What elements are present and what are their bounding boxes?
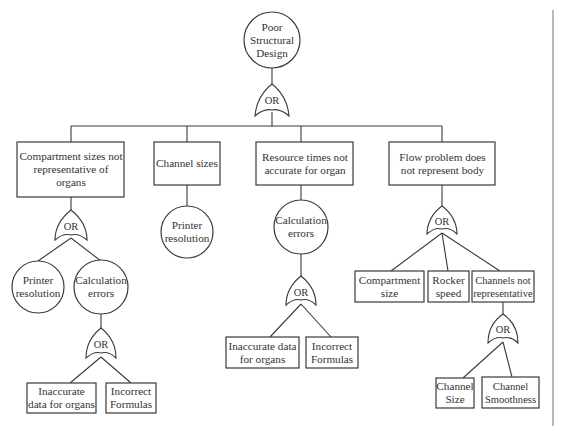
top-event-label: Poor Structural Design xyxy=(246,12,298,68)
event-label: Printer resolution xyxy=(162,213,212,251)
event-label: Rocker speed xyxy=(429,272,468,301)
gate-label: OR xyxy=(87,336,115,352)
event-label: Compartment sizes not representative of … xyxy=(19,143,123,196)
event-label: Channels not representative xyxy=(473,272,533,301)
event-label: Compartment size xyxy=(356,272,423,301)
gate-label: OR xyxy=(489,321,517,337)
fault-tree-diagram: Poor Structural Design OR OR OR OR OR OR… xyxy=(0,0,562,431)
event-label: Calculation errors xyxy=(274,208,328,246)
event-label: Incorrect Formulas xyxy=(107,384,155,412)
event-label: Inaccurate data for organs xyxy=(227,338,298,367)
event-label: Channel Smoothness xyxy=(483,378,538,407)
event-label: Inaccurate data for organs xyxy=(28,384,95,412)
event-label: Channel Size xyxy=(437,379,473,407)
event-label: Flow problem does not represent body xyxy=(391,143,494,184)
event-label: Calculation errors xyxy=(74,268,128,306)
gate-label: OR xyxy=(428,213,456,229)
gate-label: OR xyxy=(287,284,315,300)
gate-label: OR xyxy=(57,218,85,234)
gate-label: OR xyxy=(258,92,286,108)
event-label: Incorrect Formulas xyxy=(307,338,357,367)
event-label: Printer resolution xyxy=(14,268,62,306)
event-label: Channel sizes xyxy=(155,143,219,184)
event-label: Resource times not accurate for organ xyxy=(258,143,352,184)
